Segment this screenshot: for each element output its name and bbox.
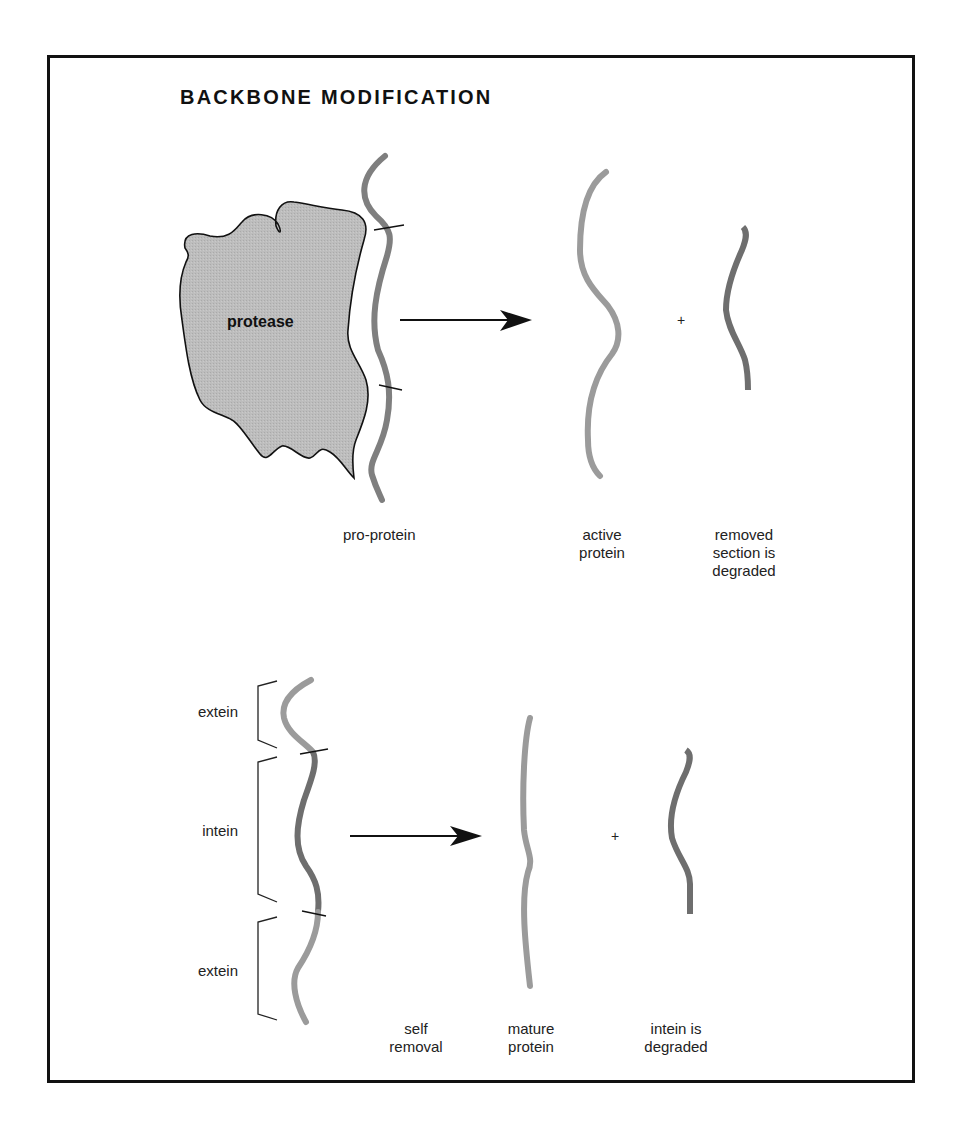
label-pro-protein: pro-protein bbox=[343, 526, 416, 544]
label-intein-degraded-line2: degraded bbox=[636, 1038, 716, 1056]
mature-protein-strand bbox=[523, 718, 530, 986]
label-removed-section: removed section is degraded bbox=[706, 526, 782, 580]
label-self-removal-line2: removal bbox=[376, 1038, 456, 1056]
label-self-removal-line1: self bbox=[376, 1020, 456, 1038]
reaction-arrow-bottom-icon bbox=[350, 826, 482, 846]
degraded-intein-strand bbox=[671, 750, 690, 914]
bracket-extein-top-icon bbox=[258, 681, 277, 748]
intein-cleavage-mark-bottom bbox=[302, 911, 326, 916]
extein-top-strand bbox=[283, 680, 313, 752]
extein-bottom-strand bbox=[294, 912, 318, 1022]
label-self-removal: self removal bbox=[376, 1020, 456, 1056]
pro-protein-strand bbox=[364, 156, 390, 500]
diagram-canvas bbox=[0, 0, 957, 1134]
plus-sign-top: + bbox=[677, 312, 685, 328]
label-intein: intein bbox=[180, 822, 238, 840]
label-active-protein-line1: active bbox=[572, 526, 632, 544]
label-extein-top: extein bbox=[180, 703, 238, 721]
bracket-extein-bottom-icon bbox=[258, 917, 277, 1020]
protease-label: protease bbox=[227, 313, 294, 331]
label-active-protein: active protein bbox=[572, 526, 632, 562]
label-mature-protein: mature protein bbox=[496, 1020, 566, 1056]
active-protein-strand bbox=[580, 172, 618, 476]
label-active-protein-line2: protein bbox=[572, 544, 632, 562]
label-extein-bottom: extein bbox=[180, 962, 238, 980]
label-intein-degraded: intein is degraded bbox=[636, 1020, 716, 1056]
label-mature-protein-line1: mature bbox=[496, 1020, 566, 1038]
label-removed-line3: degraded bbox=[706, 562, 782, 580]
label-removed-line2: section is bbox=[706, 544, 782, 562]
removed-section-strand bbox=[726, 227, 748, 390]
label-pro-protein-text: pro-protein bbox=[343, 526, 416, 543]
bracket-intein-icon bbox=[258, 757, 277, 902]
protease-blob-icon bbox=[180, 202, 368, 478]
intein-strand bbox=[298, 752, 319, 912]
label-mature-protein-line2: protein bbox=[496, 1038, 566, 1056]
label-removed-line1: removed bbox=[706, 526, 782, 544]
label-intein-degraded-line1: intein is bbox=[636, 1020, 716, 1038]
plus-sign-bottom: + bbox=[611, 828, 619, 844]
reaction-arrow-top-icon bbox=[400, 310, 532, 331]
